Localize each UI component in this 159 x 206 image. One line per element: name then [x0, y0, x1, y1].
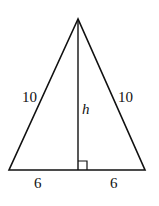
triangle-diagram: 10 10 h 6 6	[0, 0, 159, 206]
altitude-label: h	[82, 102, 90, 117]
right-angle-marker-icon	[78, 161, 87, 170]
base-right-segment-label: 6	[110, 176, 118, 191]
base-left-segment-label: 6	[34, 176, 42, 191]
left-side-label: 10	[22, 90, 37, 105]
right-side-label: 10	[118, 90, 133, 105]
